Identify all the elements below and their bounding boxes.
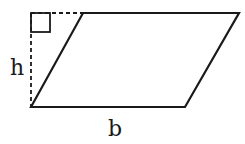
- parallelogram-diagram: h b: [0, 0, 245, 144]
- parallelogram: [31, 13, 239, 107]
- height-label: h: [10, 55, 24, 80]
- right-angle-marker: [31, 13, 50, 32]
- base-label: b: [108, 116, 122, 141]
